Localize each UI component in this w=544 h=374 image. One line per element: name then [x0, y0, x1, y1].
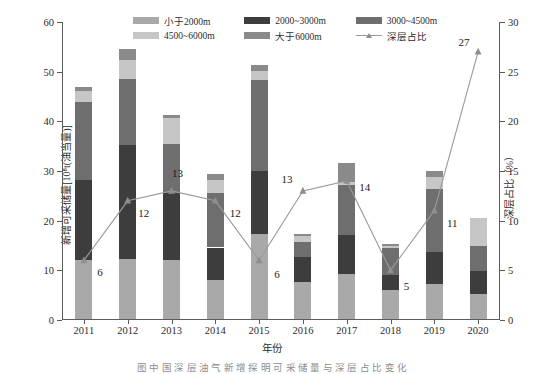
x-tick-label: 2019 — [424, 325, 445, 336]
y-tick-right — [500, 221, 505, 222]
x-tick — [303, 320, 304, 324]
y-tick-right — [500, 121, 505, 122]
data-label: 12 — [230, 207, 241, 219]
data-label: 14 — [359, 181, 370, 193]
line-marker-triangle-icon — [343, 177, 350, 184]
x-tick — [172, 320, 173, 324]
data-label: 27 — [459, 36, 470, 48]
data-label: 12 — [138, 207, 149, 219]
y-tick-left — [57, 320, 62, 321]
x-tick-label: 2015 — [249, 325, 270, 336]
y-tick-label-right: 5 — [508, 265, 513, 276]
y-axis-right-title: 深层占比（%） — [500, 150, 515, 218]
data-label: 6 — [97, 266, 103, 278]
y-tick-label-left: 40 — [44, 116, 55, 127]
x-tick-label: 2020 — [468, 325, 489, 336]
y-tick-label-right: 25 — [508, 66, 519, 77]
x-tick — [84, 320, 85, 324]
line-marker-triangle-icon — [431, 207, 438, 214]
x-tick — [391, 320, 392, 324]
deep-ratio-markers — [81, 48, 482, 273]
data-label: 13 — [172, 167, 183, 179]
x-tick-label: 2018 — [380, 325, 401, 336]
y-tick-right — [500, 72, 505, 73]
figure-caption: 图 中 国 深 层 油 气 新 增 探 明 可 采 储 量 与 深 层 占 比 … — [0, 360, 544, 374]
x-tick-label: 2012 — [117, 325, 138, 336]
x-tick-label: 2011 — [74, 325, 95, 336]
data-label: 5 — [404, 280, 410, 292]
y-tick-label-left: 20 — [44, 215, 55, 226]
deep-ratio-line — [84, 52, 478, 271]
y-tick-label-right: 20 — [508, 116, 519, 127]
x-tick-label: 2013 — [161, 325, 182, 336]
data-label: 6 — [274, 268, 280, 280]
x-tick — [128, 320, 129, 324]
x-axis-title: 年份 — [0, 340, 544, 355]
x-tick-label: 2014 — [205, 325, 226, 336]
y-tick-label-left: 30 — [44, 166, 55, 177]
y-tick-label-left: 50 — [44, 66, 55, 77]
x-tick-label: 2017 — [336, 325, 357, 336]
y-tick-label-right: 15 — [508, 166, 519, 177]
x-tick — [478, 320, 479, 324]
x-tick — [259, 320, 260, 324]
y-tick-label-left: 10 — [44, 265, 55, 276]
line-series-overlay — [62, 22, 500, 320]
y-tick-label-right: 10 — [508, 215, 519, 226]
y-tick-label-left: 60 — [44, 17, 55, 28]
y-tick-right — [500, 171, 505, 172]
y-tick-right — [500, 22, 505, 23]
y-tick-label-right: 0 — [508, 315, 513, 326]
x-tick-label: 2016 — [292, 325, 313, 336]
line-marker-triangle-icon — [475, 48, 482, 55]
data-label: 11 — [447, 217, 458, 229]
data-label: 13 — [281, 173, 292, 185]
x-tick — [347, 320, 348, 324]
x-tick — [434, 320, 435, 324]
plot-area: 0102030405060 051015202530 2011201220132… — [62, 22, 500, 320]
y-tick-label-right: 30 — [508, 17, 519, 28]
x-tick — [215, 320, 216, 324]
line-marker-triangle-icon — [168, 187, 175, 194]
y-tick-right — [500, 270, 505, 271]
y-tick-label-left: 0 — [49, 315, 54, 326]
y-tick-right — [500, 320, 505, 321]
